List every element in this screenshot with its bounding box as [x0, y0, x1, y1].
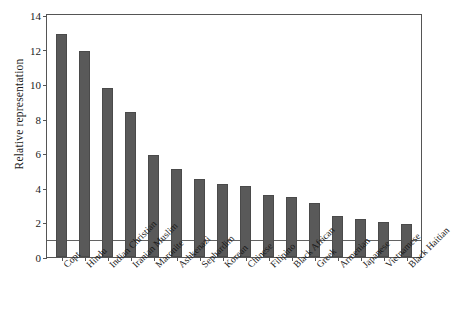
- bar-cell: [234, 15, 257, 257]
- y-axis-tick-label: 4: [36, 183, 42, 195]
- y-axis-tick-label: 8: [36, 114, 42, 126]
- bar-cell: [188, 15, 211, 257]
- y-axis-title: Relative representation: [10, 0, 28, 244]
- x-axis-labels: CoptHinduIndian ChristianIranian MuslimM…: [46, 262, 422, 330]
- bar-cell: [211, 15, 234, 257]
- bar-cell: [73, 15, 96, 257]
- y-axis-tick: 2: [36, 213, 48, 231]
- bar-series: [47, 15, 421, 257]
- bar-cell: [372, 15, 395, 257]
- y-axis-tick: 4: [36, 179, 48, 197]
- bar-cell: [395, 15, 418, 257]
- bar-cell: [257, 15, 280, 257]
- y-axis-tick: 6: [36, 144, 48, 162]
- y-axis-tick-label: 10: [30, 79, 41, 91]
- y-axis-tick: 8: [36, 110, 48, 128]
- bar: [56, 34, 67, 257]
- bar-cell: [165, 15, 188, 257]
- bar-cell: [280, 15, 303, 257]
- y-axis-tick-label: 2: [36, 218, 42, 230]
- bar-cell: [96, 15, 119, 257]
- y-axis-tick-label: 0: [36, 252, 42, 264]
- bar-cell: [303, 15, 326, 257]
- bar-cell: [326, 15, 349, 257]
- y-axis-tick: 14: [30, 6, 47, 24]
- y-axis-tick-label: 12: [30, 45, 41, 57]
- plot-area: 02468101214: [46, 14, 422, 258]
- y-axis-tick: 10: [30, 75, 47, 93]
- y-axis-tick-mark: [43, 258, 47, 259]
- y-axis-tick-label: 6: [36, 149, 42, 161]
- bar-cell: [349, 15, 372, 257]
- bar: [79, 51, 90, 257]
- y-axis-tick: 12: [30, 41, 47, 59]
- bar: [102, 88, 113, 257]
- bar-cell: [50, 15, 73, 257]
- bar-cell: [119, 15, 142, 257]
- y-axis-tick-label: 14: [30, 10, 41, 22]
